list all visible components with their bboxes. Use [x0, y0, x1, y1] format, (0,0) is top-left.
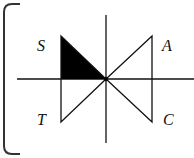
- valve-diagram: S A T C: [0, 0, 194, 158]
- label-a: A: [161, 37, 172, 54]
- label-c: C: [163, 111, 174, 128]
- center-point: [104, 77, 108, 81]
- label-s: S: [37, 37, 45, 54]
- label-t: T: [37, 111, 47, 128]
